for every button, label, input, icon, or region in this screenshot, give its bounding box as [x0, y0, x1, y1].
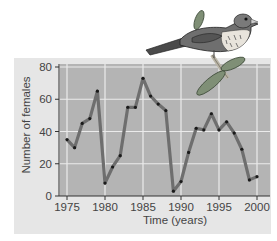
data-point	[103, 182, 106, 185]
line-chart: 020406080197519801985199019952000	[0, 0, 277, 241]
data-point	[96, 90, 99, 93]
data-point	[202, 128, 205, 131]
data-point	[195, 127, 198, 130]
data-point	[248, 178, 251, 181]
x-tick-label: 1975	[54, 201, 80, 213]
data-point	[65, 138, 68, 141]
data-point	[73, 146, 76, 149]
data-point	[81, 122, 84, 125]
y-tick-label: 20	[39, 158, 52, 170]
y-tick-label: 0	[46, 190, 52, 202]
data-point	[164, 109, 167, 112]
data-point	[88, 117, 91, 120]
x-tick-label: 2000	[244, 201, 270, 213]
data-point	[172, 190, 175, 193]
x-tick-label: 1985	[130, 201, 156, 213]
y-tick-label: 80	[39, 61, 52, 73]
x-axis-label: Time (years)	[110, 214, 240, 226]
data-point	[255, 175, 258, 178]
y-axis-label: Number of females	[20, 70, 34, 180]
data-point	[225, 120, 228, 123]
y-tick-label: 60	[39, 93, 52, 105]
data-point	[233, 132, 236, 135]
data-point	[141, 77, 144, 80]
y-tick-label: 40	[39, 126, 52, 138]
data-point	[134, 106, 137, 109]
x-tick-label: 1995	[206, 201, 232, 213]
data-point	[210, 112, 213, 115]
data-point	[240, 148, 243, 151]
data-point	[119, 154, 122, 157]
data-point	[126, 106, 129, 109]
data-point	[157, 102, 160, 105]
data-point	[111, 165, 114, 168]
x-tick-label: 1980	[92, 201, 118, 213]
data-point	[217, 128, 220, 131]
data-point	[187, 151, 190, 154]
data-point	[149, 94, 152, 97]
data-point	[179, 180, 182, 183]
plot-area	[60, 64, 270, 196]
x-tick-label: 1990	[168, 201, 194, 213]
